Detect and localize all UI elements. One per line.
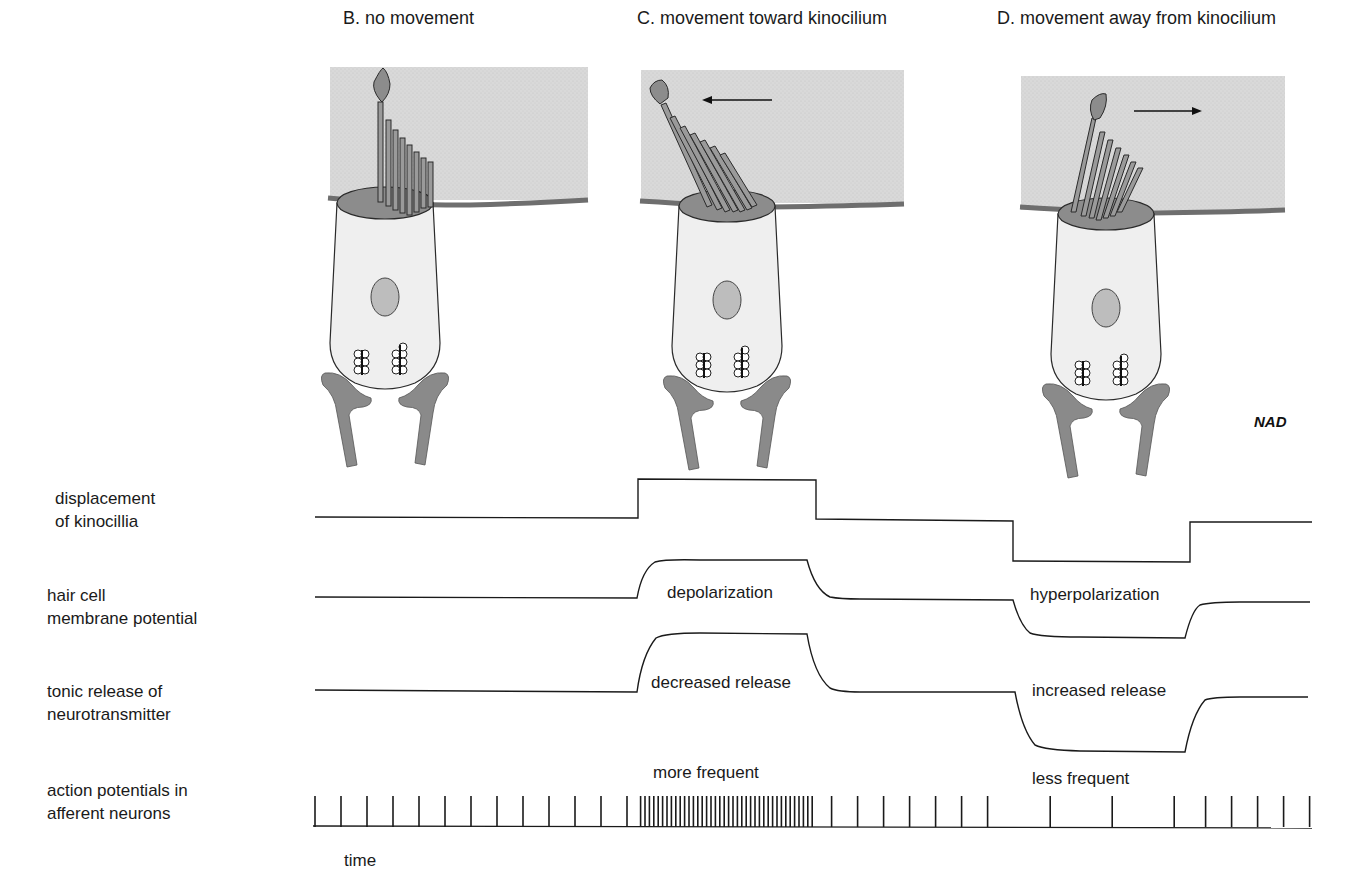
row-label-action-potentials: action potentials in afferent neurons [47, 779, 188, 825]
row-label-membrane-potential: hair cell membrane potential [47, 584, 197, 630]
panel-d-illustration [1020, 76, 1285, 478]
panel-c-illustration [640, 70, 904, 470]
time-axis-label: time [344, 851, 376, 871]
label-depolarization: depolarization [667, 583, 773, 603]
label-less-frequent: less frequent [1032, 769, 1129, 789]
hair-cell-diagram: NAD [0, 0, 1360, 881]
signature: NAD [1254, 413, 1287, 430]
label-more-frequent: more frequent [653, 763, 759, 783]
label-decreased-release: decreased release [651, 673, 791, 693]
label-increased-release: increased release [1032, 681, 1166, 701]
row-label-displacement: displacement of kinocillia [55, 487, 155, 533]
label-hyperpolarization: hyperpolarization [1030, 585, 1159, 605]
panel-b-illustration [321, 67, 588, 467]
trace-displacement [315, 479, 1312, 562]
trace-membrane-potential [315, 560, 1310, 638]
action-potential-spikes [315, 796, 1310, 827]
row-label-tonic-release: tonic release of neurotransmitter [47, 680, 171, 726]
